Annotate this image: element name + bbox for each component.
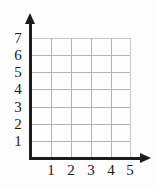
gridline-horizontal-4: [31, 89, 131, 90]
x-axis-line: [29, 157, 143, 160]
gridline-horizontal-2: [31, 124, 131, 125]
x-tick-label-4: 4: [101, 163, 121, 178]
y-axis-tick-labels: 7 6 5 4 3 2 1: [4, 0, 28, 188]
gridline-vertical-5: [130, 38, 131, 158]
y-tick-label-1: 1: [8, 134, 28, 149]
gridline-horizontal-7: [31, 38, 131, 39]
y-tick-label-4: 4: [8, 82, 28, 97]
x-axis-tick-labels: 1 2 3 4 5: [0, 163, 157, 185]
y-tick-label-2: 2: [8, 117, 28, 132]
x-tick-label-2: 2: [61, 163, 81, 178]
y-tick-label-3: 3: [8, 100, 28, 115]
y-tick-label-7: 7: [8, 31, 28, 46]
blank-coordinate-grid-chart: 7 6 5 4 3 2 1 1 2 3 4 5: [0, 0, 157, 188]
gridline-horizontal-3: [31, 107, 131, 108]
x-axis-arrow-icon: [140, 153, 151, 163]
y-tick-label-6: 6: [8, 48, 28, 63]
y-tick-label-5: 5: [8, 65, 28, 80]
gridline-vertical-4: [111, 38, 112, 158]
grid-plot-area: [31, 38, 131, 158]
x-tick-label-1: 1: [41, 163, 61, 178]
gridline-horizontal-5: [31, 72, 131, 73]
x-tick-label-3: 3: [81, 163, 101, 178]
gridline-horizontal-1: [31, 141, 131, 142]
gridline-vertical-1: [51, 38, 52, 158]
gridline-vertical-3: [91, 38, 92, 158]
gridline-horizontal-6: [31, 55, 131, 56]
x-tick-label-5: 5: [120, 163, 140, 178]
y-axis-line: [29, 22, 32, 159]
gridline-vertical-2: [71, 38, 72, 158]
